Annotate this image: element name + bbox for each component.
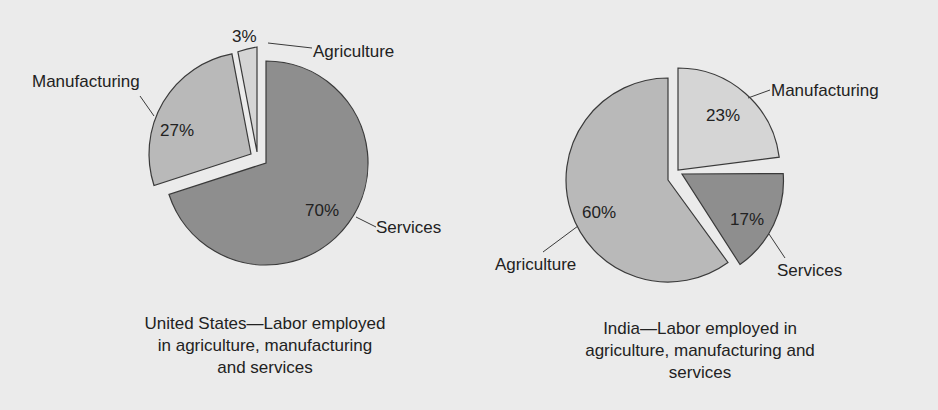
india-chart-caption: India—Labor employed in agriculture, man… [535, 318, 865, 384]
india-services-label: Services [777, 261, 842, 280]
us-manufacturing-label: Manufacturing [32, 72, 140, 91]
us-slice-manufacturing [149, 54, 251, 186]
india-caption-line-3: services [535, 362, 865, 384]
us-services-pct: 70% [305, 201, 339, 220]
india-caption-line-1: India—Labor employed in [535, 318, 865, 340]
us-caption-line-3: and services [100, 357, 430, 379]
india-manufacturing-label: Manufacturing [771, 81, 879, 100]
us-caption-line-2: in agriculture, manufacturing [100, 335, 430, 357]
india-manufacturing-pct: 23% [706, 106, 740, 125]
india-agriculture-label: Agriculture [495, 255, 576, 274]
india-caption-line-2: agriculture, manufacturing and [535, 340, 865, 362]
india-pie-chart [566, 68, 783, 282]
us-pie-chart [149, 47, 368, 265]
us-agriculture-label: Agriculture [313, 42, 394, 61]
us-manufacturing-pct: 27% [160, 121, 194, 140]
india-agriculture-pct: 60% [582, 203, 616, 222]
us-agriculture-pct: 3% [232, 27, 257, 46]
us-services-label: Services [376, 218, 441, 237]
india-services-pct: 17% [730, 210, 764, 229]
us-chart-caption: United States—Labor employed in agricult… [100, 313, 430, 379]
us-caption-line-1: United States—Labor employed [100, 313, 430, 335]
